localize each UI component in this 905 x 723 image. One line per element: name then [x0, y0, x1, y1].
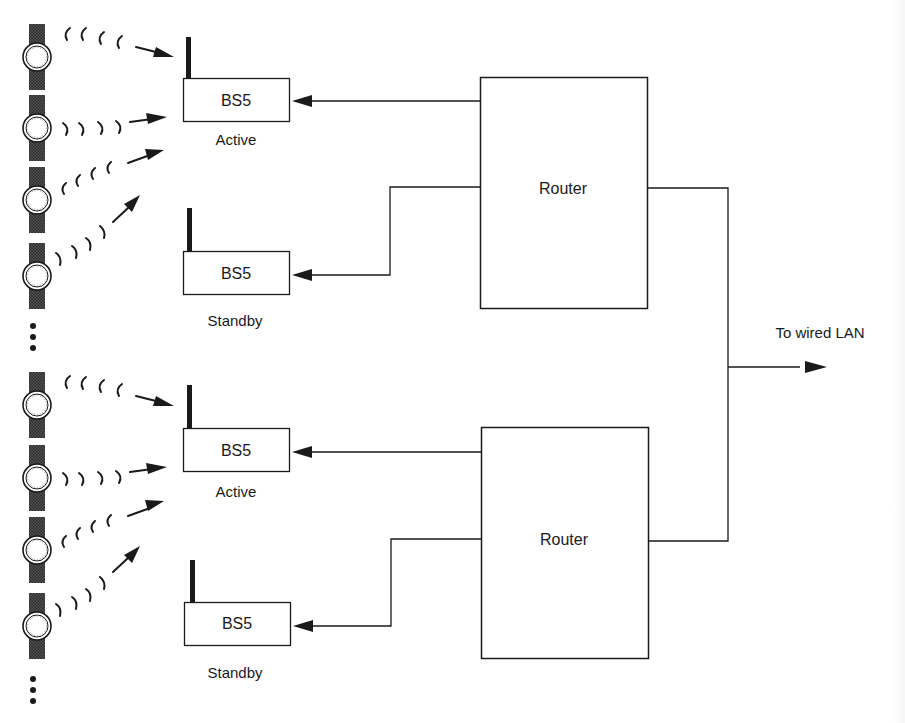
router-bottom-label: Router: [540, 531, 588, 549]
wave-arrowheads-group-1: [124, 47, 174, 212]
mobile-devices-group-1: [23, 24, 51, 351]
bs-top-active-label: BS5: [221, 92, 251, 110]
network-diagram: [0, 0, 905, 723]
bs-top-active-status: Active: [216, 131, 257, 148]
router-top-label: Router: [539, 180, 587, 198]
wristwatch-icon: [23, 517, 51, 583]
radio-waves-group-2: [56, 376, 160, 616]
bs-top-standby-status: Standby: [207, 312, 262, 329]
antenna-icon: [187, 385, 192, 429]
antenna-icon: [186, 37, 191, 79]
wristwatch-icon: [23, 167, 51, 233]
bs-bottom-active-label: BS5: [221, 442, 251, 460]
mobile-devices-group-2: [23, 372, 51, 704]
wristwatch-icon: [23, 445, 51, 511]
wired-lan-label: To wired LAN: [775, 324, 864, 341]
bs-bottom-standby-label: BS5: [222, 615, 252, 633]
antenna-icon: [187, 208, 192, 252]
wave-arrowheads-group-2: [124, 396, 174, 563]
bs-top-standby-label: BS5: [221, 265, 251, 283]
wristwatch-icon: [23, 95, 51, 161]
lan-arrow-icon: [805, 361, 827, 373]
wristwatch-icon: [23, 24, 51, 90]
wristwatch-icon: [23, 243, 51, 309]
wristwatch-icon: [23, 372, 51, 438]
bs-bottom-standby-status: Standby: [207, 664, 262, 681]
radio-waves-group-1: [56, 28, 160, 265]
bs-bottom-active-status: Active: [216, 483, 257, 500]
antenna-icon: [190, 560, 195, 603]
wristwatch-icon: [23, 593, 51, 659]
scan-edge: [893, 0, 905, 723]
